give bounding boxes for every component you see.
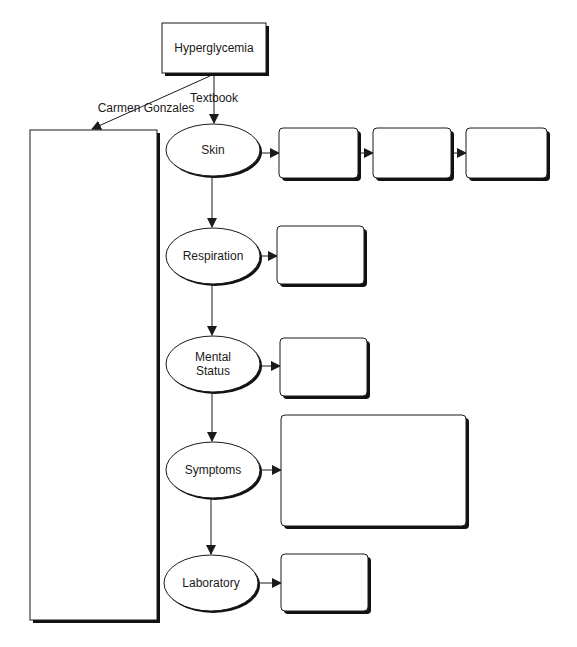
skin-answer-box-1 <box>279 128 361 181</box>
respiration-answer-box <box>277 226 367 287</box>
symptoms-label: Symptoms <box>166 442 260 498</box>
root-label: Hyperglycemia <box>162 23 266 73</box>
mental-status-label: Mental Status <box>166 336 260 392</box>
laboratory-answer-box <box>281 554 371 614</box>
respiration-label: Respiration <box>166 228 260 284</box>
symptoms-answer-box <box>281 415 469 529</box>
patient-box <box>30 130 160 623</box>
edge-label-textbook: Textbook <box>186 90 242 106</box>
skin-answer-box-3 <box>466 128 550 181</box>
concept-map-canvas <box>0 0 577 647</box>
laboratory-label: Laboratory <box>164 555 258 611</box>
skin-answer-box-2 <box>373 128 454 181</box>
skin-label: Skin <box>166 124 260 176</box>
mental-status-answer-box <box>280 338 370 399</box>
